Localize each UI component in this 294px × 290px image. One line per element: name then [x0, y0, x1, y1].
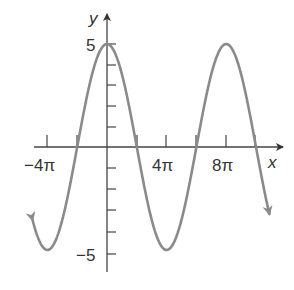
x-tick-label-neg4pi: −4π — [24, 156, 55, 175]
cosine-graph: y x 5 −5 −4π 4π 8π — [0, 0, 294, 290]
y-ticks — [107, 44, 116, 254]
y-tick-label-neg5: −5 — [76, 246, 95, 265]
y-tick-label-5: 5 — [86, 36, 95, 55]
x-tick-label-8pi: 8π — [212, 156, 233, 175]
y-axis-label: y — [88, 9, 99, 28]
x-axis-label: x — [267, 153, 277, 172]
x-tick-label-4pi: 4π — [152, 156, 173, 175]
